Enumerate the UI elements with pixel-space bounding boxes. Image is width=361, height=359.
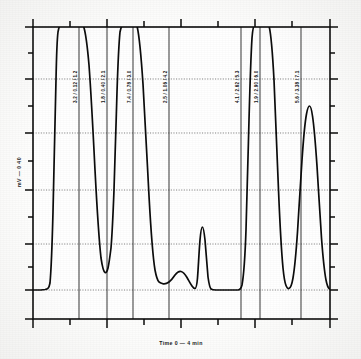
peak-label-7: 5.6 / 3.38 / 7.1 bbox=[295, 70, 300, 103]
left-axis-ticks bbox=[25, 27, 33, 319]
chromatogram-plot: 3.2 / 0.12 / 1.2 1.8 / 0.40 / 2.1 7.4 / … bbox=[0, 0, 361, 359]
peak-label-3: 7.4 / 0.78 / 3.0 bbox=[127, 70, 132, 103]
bottom-axis-ticks bbox=[33, 319, 330, 328]
peak-label-4: 2.5 / 1.06 / 4.2 bbox=[163, 70, 168, 103]
peak-label-5: 4.1 / 2.62 / 5.3 bbox=[235, 70, 240, 103]
y-axis-caption: mV — 0 40 bbox=[16, 157, 22, 187]
peak-label-6: 1.9 / 2.90 / 6.0 bbox=[254, 70, 259, 103]
peak-label-1: 3.2 / 0.12 / 1.2 bbox=[73, 70, 78, 103]
top-axis-ticks bbox=[33, 19, 330, 27]
right-axis-ticks bbox=[330, 27, 338, 319]
x-axis-caption: Time 0 — 4 min bbox=[159, 340, 203, 346]
chromatogram-figure: 3.2 / 0.12 / 1.2 1.8 / 0.40 / 2.1 7.4 / … bbox=[0, 0, 361, 359]
peak-label-2: 1.8 / 0.40 / 2.1 bbox=[101, 70, 106, 103]
